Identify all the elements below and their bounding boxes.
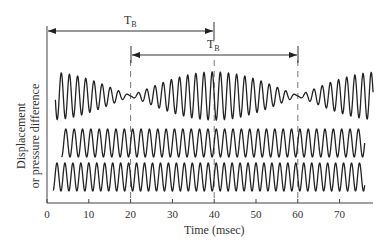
- y-axis-label-line1: Displacement: [14, 102, 28, 169]
- y-axis-label-line2: or pressure difference: [28, 84, 42, 188]
- x-tick-label: 30: [167, 208, 179, 220]
- beat-waveform: [55, 72, 373, 120]
- tb-annotation-2: TB: [131, 37, 298, 63]
- tb-label-1: TB: [124, 13, 137, 29]
- beats-chart: 010203040506070 TB TB Time (msec) Displa…: [0, 0, 386, 244]
- tone-1-waveform: [62, 129, 365, 157]
- x-tick-label: 10: [83, 208, 95, 220]
- x-tick-label: 40: [209, 208, 221, 220]
- x-ticks: 010203040506070: [44, 199, 345, 220]
- x-tick-label: 0: [44, 208, 50, 220]
- tb-annotation-1: TB: [48, 13, 214, 40]
- x-tick-label: 70: [334, 208, 346, 220]
- x-axis-label: Time (msec): [184, 223, 245, 237]
- x-tick-label: 60: [292, 208, 304, 220]
- tb-label-2: TB: [207, 37, 220, 53]
- x-tick-label: 20: [125, 208, 137, 220]
- tone-2-waveform: [53, 163, 364, 191]
- x-tick-label: 50: [251, 208, 263, 220]
